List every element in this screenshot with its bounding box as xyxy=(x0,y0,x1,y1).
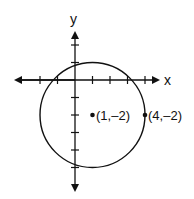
coordinate-plane: x y (1,–2) (4,–2) xyxy=(0,0,194,199)
center-point-label: (1,–2) xyxy=(96,108,130,123)
y-axis-label: y xyxy=(70,11,77,27)
x-axis-label: x xyxy=(164,72,171,88)
x-axis: x xyxy=(16,72,171,88)
center-point: (1,–2) xyxy=(90,108,130,123)
circle-point-label: (4,–2) xyxy=(148,108,182,123)
circle-point: (4,–2) xyxy=(143,108,182,123)
